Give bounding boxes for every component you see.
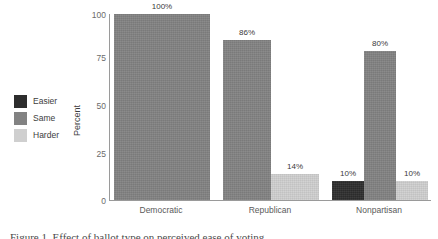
bar-slot-republican-harder: 14%: [271, 14, 319, 200]
bar-label-nonpartisan-harder: 10%: [404, 170, 420, 178]
bar-republican-same[interactable]: 86%: [223, 40, 271, 200]
y-tick-100: 100: [92, 11, 106, 20]
plot-area: 100% 86% 14%: [110, 14, 431, 200]
y-tick-25: 25: [97, 150, 106, 159]
bar-group-democratic: 100%: [114, 14, 210, 200]
bar-chart-figure: Easier Same Harder Percent 100 75 50 25 …: [0, 0, 438, 239]
bar-label-nonpartisan-easier: 10%: [340, 170, 356, 178]
legend-swatch-easier: [14, 95, 27, 108]
x-label-nonpartisan: Nonpartisan: [356, 206, 402, 215]
bar-slot-republican-same: 86%: [223, 14, 271, 200]
plot-panel: 100% 86% 14%: [109, 14, 431, 201]
bar-democratic-same[interactable]: 100%: [114, 14, 210, 200]
legend-swatch-same: [14, 112, 27, 125]
legend-label-harder: Harder: [33, 131, 59, 140]
legend-item-harder[interactable]: Harder: [14, 127, 76, 143]
legend-item-same[interactable]: Same: [14, 110, 76, 126]
legend-swatch-harder: [14, 129, 27, 142]
bar-label-nonpartisan-same: 80%: [372, 40, 388, 48]
y-tick-75: 75: [97, 54, 106, 63]
chart-legend: Easier Same Harder: [14, 93, 76, 144]
bar-republican-harder[interactable]: 14%: [271, 174, 319, 200]
bar-label-republican-same: 86%: [239, 29, 255, 37]
bar-nonpartisan-easier[interactable]: 10%: [332, 181, 364, 200]
bar-label-democratic-same: 100%: [152, 3, 172, 11]
bar-group-republican: 86% 14%: [223, 14, 319, 200]
y-axis-title: Percent: [72, 88, 84, 152]
legend-item-easier[interactable]: Easier: [14, 93, 76, 109]
x-label-republican: Republican: [249, 206, 292, 215]
bar-slot-nonpartisan-harder: 10%: [396, 14, 428, 200]
bar-slot-democratic-same: 100%: [114, 14, 210, 200]
figure-caption: Figure 1. Effect of ballot type on perce…: [10, 231, 430, 239]
bar-group-nonpartisan: 10% 80% 10%: [332, 14, 428, 200]
x-label-democratic: Democratic: [140, 206, 183, 215]
y-axis-tick-labels: 100 75 50 25 0: [84, 0, 106, 239]
legend-label-same: Same: [33, 114, 55, 123]
y-tick-50: 50: [97, 102, 106, 111]
bar-slot-nonpartisan-easier: 10%: [332, 14, 364, 200]
y-tick-0: 0: [101, 197, 106, 206]
bar-slot-nonpartisan-same: 80%: [364, 14, 396, 200]
bar-nonpartisan-harder[interactable]: 10%: [396, 181, 428, 200]
legend-label-easier: Easier: [33, 97, 57, 106]
x-axis-tick-labels: Democratic Republican Nonpartisan: [109, 206, 431, 220]
bar-nonpartisan-same[interactable]: 80%: [364, 51, 396, 200]
bar-label-republican-harder: 14%: [287, 163, 303, 171]
